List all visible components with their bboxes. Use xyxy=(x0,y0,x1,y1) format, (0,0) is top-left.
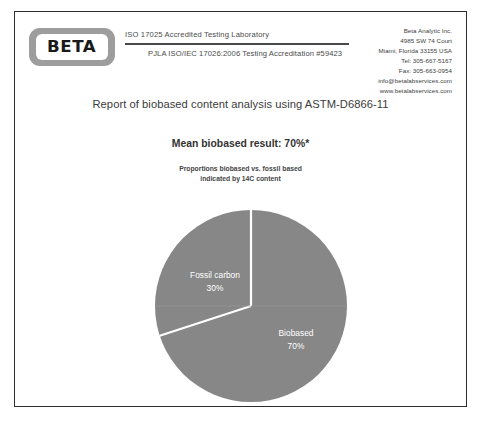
contact-city-state: Miami, Florida 33155 USA xyxy=(378,46,452,56)
pjla-accreditation-line: PJLA ISO/IEC 17026:2006 Testing Accredit… xyxy=(125,49,350,58)
chart-subcaption-line-2: indicated by 14C content xyxy=(15,174,466,184)
report-page: BETA ISO 17025 Accredited Testing Labora… xyxy=(14,11,467,407)
pie-label-biobased-value: 70% xyxy=(288,341,305,351)
contact-street: 4985 SW 74 Court xyxy=(378,36,452,46)
chart-subcaption-line-1: Proportions biobased vs. fossil based xyxy=(15,164,466,174)
company-contact-block: Beta Analytic Inc. 4985 SW 74 Court Miam… xyxy=(378,26,452,96)
biobased-pie-chart: Fossil carbon 30% Biobased 70% xyxy=(153,208,349,404)
report-title: Report of biobased content analysis usin… xyxy=(15,98,466,110)
accreditation-block: ISO 17025 Accredited Testing Laboratory … xyxy=(125,30,350,58)
contact-telephone: Tel: 305-667-5167 xyxy=(378,56,452,66)
accreditation-divider xyxy=(125,43,349,45)
pie-label-biobased-name: Biobased xyxy=(279,328,314,338)
pie-label-fossil-carbon-value: 30% xyxy=(207,283,224,293)
pie-label-fossil-carbon-name: Fossil carbon xyxy=(190,270,240,280)
beta-logo-text: BETA xyxy=(47,39,96,55)
letterhead: BETA ISO 17025 Accredited Testing Labora… xyxy=(15,12,466,90)
contact-website[interactable]: www.betalabservices.com xyxy=(378,86,452,96)
contact-fax: Fax: 305-663-0954 xyxy=(378,66,452,76)
chart-subcaption: Proportions biobased vs. fossil based in… xyxy=(15,164,466,184)
contact-company-name: Beta Analytic Inc. xyxy=(378,26,452,36)
beta-logo-inner: BETA xyxy=(36,34,108,60)
iso-accreditation-line: ISO 17025 Accredited Testing Laboratory xyxy=(125,30,350,39)
beta-logo: BETA xyxy=(29,28,115,66)
mean-biobased-result: Mean biobased result: 70%* xyxy=(15,138,466,149)
contact-email[interactable]: info@betalabservices.com xyxy=(378,76,452,86)
